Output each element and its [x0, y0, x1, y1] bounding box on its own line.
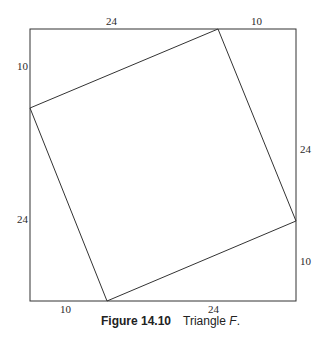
label-left-top-segment: 10: [17, 60, 28, 72]
caption-text: Triangle: [183, 314, 229, 328]
label-right-top-segment: 24: [300, 143, 311, 155]
caption-italic-letter: F: [229, 314, 236, 328]
inner-tilted-square: [30, 29, 296, 301]
label-right-bottom-segment: 10: [300, 255, 311, 267]
pythagorean-square-diagram: [0, 0, 325, 342]
figure-caption: Figure 14.10Triangle F.: [101, 314, 240, 328]
label-bottom-left-segment: 10: [60, 303, 71, 315]
caption-period: .: [237, 314, 240, 328]
label-top-right-segment: 10: [251, 15, 262, 27]
label-left-bottom-segment: 24: [17, 213, 28, 225]
figure-number: Figure 14.10: [101, 314, 171, 328]
outer-square: [30, 29, 296, 301]
label-top-left-segment: 24: [106, 15, 117, 27]
